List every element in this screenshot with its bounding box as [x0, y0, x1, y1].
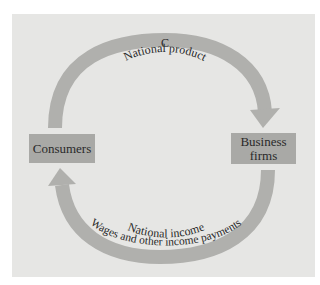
business-firms-box: Business firms	[231, 133, 296, 164]
consumers-label: Consumers	[33, 142, 92, 156]
business-label: Business	[240, 135, 286, 149]
firms-label: firms	[250, 149, 277, 163]
consumers-box: Consumers	[29, 134, 95, 163]
